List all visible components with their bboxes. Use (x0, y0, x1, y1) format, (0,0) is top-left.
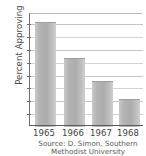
bar-1965 (35, 22, 56, 127)
x-axis-line (29, 125, 143, 126)
chart-source-note: Source: D. Simon, Southern Methodist Uni… (30, 140, 146, 156)
x-tick-label-1967: 1967 (86, 128, 116, 138)
bar-1967 (92, 81, 113, 127)
bar-1966 (64, 58, 85, 127)
y-axis-title: Percent Approving (14, 0, 24, 97)
plot-area (29, 13, 142, 126)
bar-1968 (119, 99, 140, 127)
x-tick-label-1965: 1965 (29, 128, 59, 138)
x-tick-label-1966: 1966 (58, 128, 88, 138)
bar-series (30, 14, 143, 127)
chart-title-clipped (26, 0, 126, 3)
bar-chart-figure: Percent Approving 70 60 50 40 30 (0, 0, 146, 156)
x-tick-label-1968: 1968 (113, 128, 143, 138)
source-line-2: Methodist University (30, 148, 146, 156)
